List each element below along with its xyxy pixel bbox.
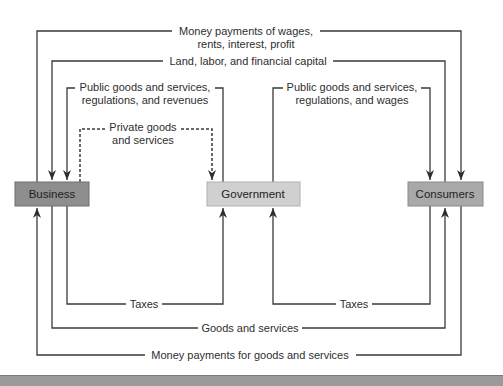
label-gov-consumers-2: regulations, and wages	[295, 94, 409, 106]
label-money-goods: Money payments for goods and services	[151, 349, 349, 361]
flow-money-goods: Money payments for goods and services	[37, 206, 461, 361]
label-private-goods-1: Private goods	[109, 121, 177, 133]
label-gov-business-2: regulations, and revenues	[82, 94, 209, 106]
flow-consumer-taxes: Taxes	[273, 206, 430, 310]
government-label: Government	[221, 188, 285, 200]
consumers-label: Consumers	[416, 188, 475, 200]
flow-private-goods: Private goods and services	[80, 121, 212, 182]
business-label: Business	[29, 188, 76, 200]
business-box: Business	[15, 182, 89, 206]
government-box: Government	[207, 182, 300, 206]
label-gov-consumers-1: Public goods and services,	[287, 81, 418, 93]
label-private-goods-2: and services	[112, 134, 174, 146]
flow-gov-to-consumers: Public goods and services, regulations, …	[273, 81, 430, 182]
label-gov-business-1: Public goods and services,	[80, 81, 211, 93]
label-consumer-taxes: Taxes	[340, 298, 369, 310]
flow-business-taxes: Taxes	[67, 206, 223, 310]
label-money-wages-2: rents, interest, profit	[197, 38, 294, 50]
label-money-wages-1: Money payments of wages,	[179, 25, 313, 37]
consumers-box: Consumers	[408, 182, 483, 206]
bottom-border-bar	[0, 375, 503, 386]
label-land-labor-capital: Land, labor, and financial capital	[169, 55, 326, 67]
label-business-taxes: Taxes	[130, 298, 159, 310]
flow-goods-services: Goods and services	[52, 206, 445, 334]
label-goods-services: Goods and services	[201, 322, 299, 334]
flow-land-labor-capital: Land, labor, and financial capital	[52, 55, 445, 182]
